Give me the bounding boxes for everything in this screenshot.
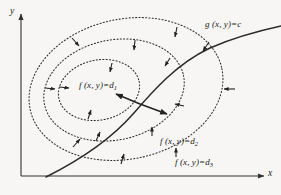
constraint-curve-label: g (x, y)=c [205,20,241,29]
level-curve-d2-subscript: 2 [195,140,198,147]
level-curve-d1-label-text: f (x, y)=d [79,80,114,90]
lagrange-multiplier-figure: g (x, y)=c f (x, y)=d1 f (x, y)=d2 f (x,… [0,0,281,195]
normal-arrow-icon [175,27,177,37]
level-curve-d3 [16,0,237,178]
normal-arrow-icon [45,88,55,89]
gradient-arrows-group [116,94,167,114]
level-curve-d3-label-text: f (x, y)=d [175,157,210,167]
constraint-curve-g [46,26,281,177]
normal-arrow-icon [175,104,184,106]
normal-arrow-icon [96,132,100,141]
y-axis-label: y [10,7,14,17]
normal-arrow-icon [59,87,69,88]
level-curve-d3-subscript: 3 [210,161,213,168]
level-curves-group [16,0,237,178]
normal-arrow-icon [110,63,112,72]
normal-arrow-icon [134,40,135,50]
normal-arrow-icon [88,110,91,119]
x-axis-label: x [268,169,272,179]
normal-arrow-icon [121,154,124,164]
gradient-g-arrow [140,104,167,114]
normal-arrow-icon [165,58,170,66]
normal-arrow-icon [72,38,79,46]
level-curve-d2-label-text: f (x, y)=d [160,136,195,146]
axes-group [21,14,264,176]
level-curve-d1-subscript: 1 [114,84,117,91]
figure-canvas [0,0,281,195]
normal-arrow-icon [73,139,80,147]
level-curve-d1-label: f (x, y)=d1 [79,81,117,92]
gradient-f-arrow [116,94,140,104]
level-curve-d3-label: f (x, y)=d3 [175,158,213,169]
level-curve-d2-label: f (x, y)=d2 [160,137,198,148]
